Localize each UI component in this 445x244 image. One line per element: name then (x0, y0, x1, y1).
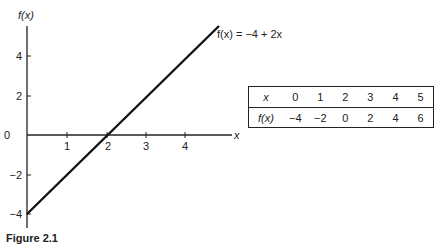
table-row-x: x 0 1 2 3 4 5 (249, 87, 433, 107)
table-cell: 0 (333, 112, 358, 124)
x-tick-label: 1 (64, 140, 70, 152)
table-cell: 5 (408, 91, 433, 103)
x-tick-label: 3 (143, 140, 149, 152)
function-line (27, 26, 219, 214)
table-cell: 3 (358, 91, 383, 103)
table-cell: 0 (283, 91, 308, 103)
table-cell: 6 (408, 112, 433, 124)
table-cell: 1 (308, 91, 333, 103)
value-table: x 0 1 2 3 4 5 f(x) −4 −2 0 2 4 6 (248, 86, 434, 128)
x-tick-label: 4 (182, 140, 188, 152)
y-tick-label: 4 (16, 50, 22, 62)
table-row-fx: f(x) −4 −2 0 2 4 6 (249, 107, 433, 128)
figure-caption: Figure 2.1 (6, 232, 58, 244)
y-tick-label: 2 (16, 90, 22, 102)
table-cell: 2 (333, 91, 358, 103)
y-tick-label: −2 (9, 169, 22, 181)
y-tick-label: −4 (9, 208, 22, 220)
x-tick-label: 2 (105, 140, 111, 152)
y-axis-label: f(x) (18, 9, 34, 21)
table-cell: 4 (383, 91, 408, 103)
origin-label: 0 (4, 129, 10, 141)
x-axis-label: x (233, 129, 240, 141)
equation-label: f(x) = −4 + 2x (217, 28, 283, 40)
table-cell: −2 (308, 112, 333, 124)
table-cell: 4 (383, 112, 408, 124)
table-header-cell: x (249, 91, 283, 103)
table-cell: 2 (358, 112, 383, 124)
table-header-cell: f(x) (249, 112, 283, 124)
table-cell: −4 (283, 112, 308, 124)
